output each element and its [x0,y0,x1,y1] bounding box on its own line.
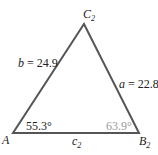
vertex-label-b: B2 [139,134,150,150]
vertex-label-c: C2 [83,7,95,23]
side-label-c: c2 [72,134,81,150]
angle-label-b: 63.9° [106,119,132,133]
vertex-label-a: A [1,133,10,147]
triangle-diagram: C2 b = 24.9 a = 22.8 55.3° 63.9° A c2 B2 [0,0,158,155]
angle-label-a: 55.3° [26,119,52,133]
side-label-a: a = 22.8 [119,77,158,91]
side-label-b: b = 24.9 [18,56,58,70]
